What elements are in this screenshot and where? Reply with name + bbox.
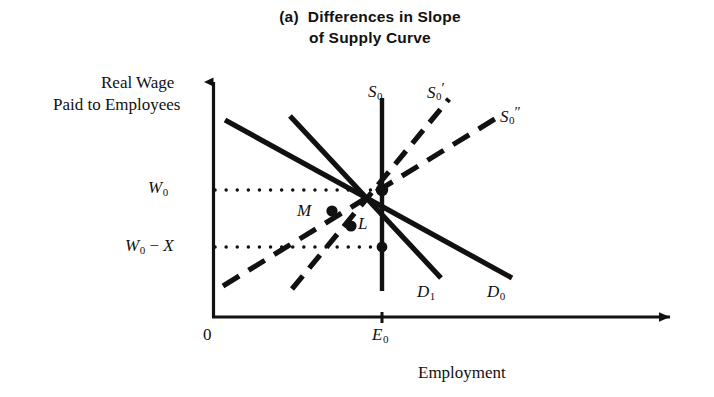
curve-label-s0-double-prime-letter: S: [500, 107, 509, 126]
curve-label-s0-prime: S0′: [427, 80, 445, 103]
point-m: [326, 205, 337, 216]
y-axis-label-line-2: Paid to Employees: [53, 94, 180, 116]
supply-demand-plot: [0, 0, 714, 397]
x-axis-tick-label-e0-subscript: 0: [383, 333, 389, 345]
x-axis-origin-label: 0: [203, 325, 212, 345]
y-axis-tick-label-x-variable: X: [163, 236, 173, 255]
curve-label-d1-letter: D: [417, 282, 429, 301]
x-axis-tick-label-e0-letter: E: [372, 325, 382, 344]
y-axis-tick-label-minus-operator: −: [145, 236, 163, 255]
y-axis-tick-label-w0-minus-x-letter: W: [125, 236, 139, 255]
curve-label-s0-double-prime: S0″: [500, 104, 521, 127]
point-d0-at-w0-minus-x: [377, 242, 388, 253]
curve-label-d0: D0: [487, 282, 505, 302]
point-equilibrium-e0-w0: [376, 184, 388, 196]
curve-label-d0-letter: D: [487, 282, 499, 301]
y-axis-tick-label-w0: W0: [148, 178, 168, 198]
curve-label-s0-prime-mark: ′: [442, 80, 445, 96]
figure-container: (a)Differences in Slope of Supply Curve: [0, 0, 714, 397]
curve-label-s0-prime-letter: S: [427, 83, 436, 102]
y-axis-tick-label-w0-letter: W: [148, 178, 162, 197]
point-label-l: L: [358, 214, 367, 234]
curve-label-s0-subscript: 0: [377, 90, 383, 102]
point-l: [345, 220, 356, 231]
curve-label-d0-subscript: 0: [500, 290, 506, 302]
curve-label-s0-letter: S: [368, 82, 377, 101]
curve-label-s0-double-prime-mark: ″: [515, 104, 521, 120]
curve-label-d1: D1: [417, 282, 435, 302]
y-axis-tick-label-w0-minus-x: W0 − X: [125, 236, 174, 256]
point-label-m: M: [297, 201, 311, 221]
curve-label-d1-subscript: 1: [430, 290, 436, 302]
axis-group: [212, 82, 670, 323]
y-axis-label-line-1: Real Wage: [101, 72, 174, 94]
x-axis-label: Employment: [418, 362, 506, 384]
y-axis-tick-label-w0-subscript: 0: [163, 186, 169, 198]
curve-label-s0: S0: [368, 82, 383, 102]
x-axis-tick-label-e0: E0: [372, 325, 388, 345]
